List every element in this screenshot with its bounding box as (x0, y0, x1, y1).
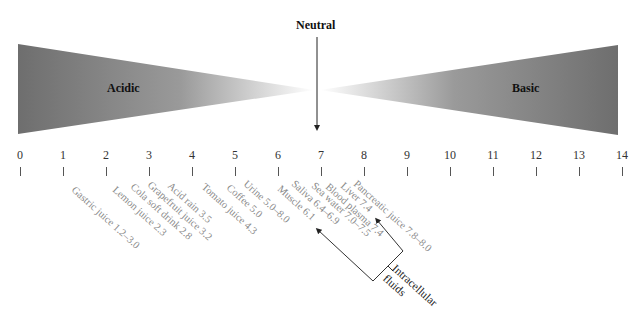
acidic-wedge (18, 44, 314, 134)
tick-label: 13 (573, 148, 585, 163)
tick-mark (321, 167, 322, 176)
basic-label: Basic (512, 81, 539, 96)
tick-mark (20, 167, 21, 176)
tick-mark (192, 167, 193, 176)
tick-label: 4 (189, 148, 195, 163)
tick-mark (536, 167, 537, 176)
tick-mark (106, 167, 107, 176)
tick-mark (235, 167, 236, 176)
tick-label: 2 (103, 148, 109, 163)
tick-mark (450, 167, 451, 176)
tick-mark (364, 167, 365, 176)
tick-label: 1 (60, 148, 66, 163)
tick-label: 6 (275, 148, 281, 163)
tick-mark (63, 167, 64, 176)
tick-mark (407, 167, 408, 176)
tick-label: 7 (318, 148, 324, 163)
tick-label: 14 (616, 148, 628, 163)
tick-mark (278, 167, 279, 176)
tick-label: 12 (530, 148, 542, 163)
tick-label: 5 (232, 148, 238, 163)
tick-label: 8 (361, 148, 367, 163)
tick-mark (493, 167, 494, 176)
tick-mark (149, 167, 150, 176)
acidic-label: Acidic (107, 81, 140, 96)
tick-mark (622, 167, 623, 176)
tick-label: 9 (404, 148, 410, 163)
tick-label: 3 (146, 148, 152, 163)
tick-label: 0 (17, 148, 23, 163)
tick-mark (579, 167, 580, 176)
tick-label: 11 (487, 148, 499, 163)
basic-wedge (320, 45, 618, 135)
neutral-label: Neutral (296, 18, 335, 33)
tick-label: 10 (444, 148, 456, 163)
